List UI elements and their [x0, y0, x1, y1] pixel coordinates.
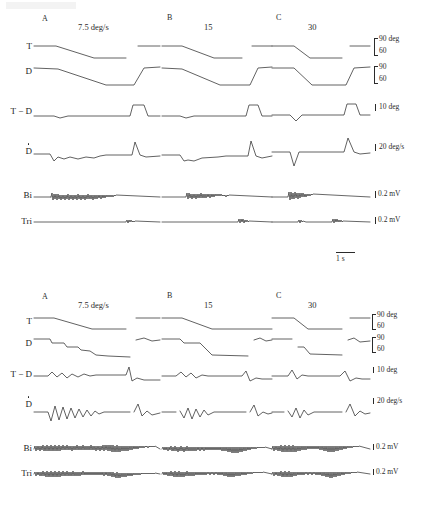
- panel-letter-a-lower: A: [42, 292, 48, 301]
- scale-t-minus-d-label: 10 deg: [379, 103, 399, 111]
- figure-block-upper: A 7.5 deg/s B 15 C 30 T D T − D D Bi Tri: [0, 0, 427, 255]
- trace-t-minus-d-panel-a-lower: [34, 363, 160, 389]
- row-label-t-minus-d: T − D: [0, 106, 32, 116]
- trace-tri-panel-c-lower: [272, 467, 370, 481]
- row-label-tri: Tri: [2, 216, 32, 226]
- trace-tri-panel-b: [162, 216, 272, 228]
- trace-t-panel-b-lower: [162, 312, 272, 334]
- panel-speed-b-lower: 15: [204, 300, 213, 310]
- scale-d-lower-value-lower: 60: [377, 345, 385, 353]
- scale-t-lower-value-lower: 60: [377, 322, 385, 330]
- trace-d-dot-panel-b-lower: [162, 396, 272, 426]
- trace-tri-panel-a: [34, 216, 160, 228]
- panel-header-row-lower: A 7.5 deg/s B 15 C 30: [0, 278, 427, 308]
- trace-d-dot-panel-a-lower: [34, 396, 160, 426]
- trace-bi-panel-b-lower: [162, 442, 272, 456]
- row-label-bi: Bi: [4, 190, 32, 200]
- panel-letter-c: C: [276, 13, 282, 22]
- row-label-d: D: [8, 66, 32, 76]
- trace-t-minus-d-panel-a: [34, 100, 160, 124]
- trace-t-minus-d-panel-b-lower: [162, 363, 272, 389]
- panel-letter-b-lower: B: [167, 291, 173, 300]
- scale-bi-label-lower: 0.2 mV: [376, 443, 399, 451]
- trace-tri-panel-b-lower: [162, 467, 272, 481]
- panel-letter-b: B: [167, 13, 173, 22]
- scale-d-dot-label-lower: 20 deg/s: [377, 397, 402, 405]
- scale-d-upper-value-lower: 90: [377, 334, 385, 342]
- scale-d-dot-label: 20 deg/s: [379, 143, 404, 151]
- panel-speed-b: 15: [204, 22, 213, 32]
- row-label-d-lower: D: [8, 338, 32, 348]
- scale-t-upper-value-lower: 90 deg: [377, 311, 397, 319]
- trace-t-minus-d-panel-c: [272, 100, 370, 124]
- trace-t-panel-a-lower: [34, 312, 160, 334]
- trace-bi-panel-a-lower: [34, 442, 160, 456]
- figure-block-lower: A 7.5 deg/s B 15 C 30 T D T − D D Bi Tri: [0, 278, 427, 507]
- row-label-bi-lower: Bi: [4, 443, 32, 453]
- trace-bi-panel-b: [162, 190, 272, 204]
- trace-d-dot-panel-c: [272, 134, 370, 170]
- scale-bi-label: 0.2 mV: [378, 190, 401, 198]
- trace-d-panel-c: [272, 61, 370, 91]
- scale-t-upper-value: 90 deg: [379, 35, 399, 43]
- scale-tri-label: 0.2 mV: [378, 216, 401, 224]
- trace-bi-panel-a: [34, 190, 160, 204]
- trace-t-minus-d-panel-b: [162, 100, 272, 124]
- trace-t-minus-d-panel-c-lower: [272, 363, 370, 389]
- row-label-t-minus-d-lower: T − D: [0, 369, 32, 379]
- trace-t-panel-c: [272, 36, 370, 62]
- panel-letter-c-lower: C: [276, 291, 282, 300]
- trace-d-panel-a-lower: [34, 334, 160, 362]
- trace-d-dot-panel-b: [162, 136, 272, 168]
- scale-t-minus-d-label-lower: 10 deg: [377, 366, 397, 374]
- trace-t-panel-b: [162, 36, 272, 62]
- row-label-tri-lower: Tri: [2, 468, 32, 478]
- trace-d-panel-a: [34, 61, 160, 91]
- trace-bi-panel-c: [272, 190, 370, 204]
- row-label-d-dot-lower: D: [8, 399, 32, 409]
- row-label-d-dot: D: [8, 146, 32, 156]
- panel-header-row-upper: A 7.5 deg/s B 15 C 30: [0, 0, 427, 30]
- scale-tri-label-lower: 0.2 mV: [376, 468, 399, 476]
- trace-d-panel-b-lower: [162, 334, 272, 362]
- scale-d-upper-value: 90: [379, 63, 387, 71]
- panel-speed-a: 7.5 deg/s: [78, 22, 109, 32]
- trace-t-panel-c-lower: [272, 312, 370, 334]
- trace-d-panel-c-lower: [272, 334, 370, 362]
- trace-tri-panel-a-lower: [34, 467, 160, 481]
- scale-t-lower-value: 60: [379, 47, 387, 55]
- trace-d-dot-panel-a: [34, 136, 160, 168]
- trace-t-panel-a: [34, 36, 160, 62]
- time-scale-line: [336, 252, 355, 253]
- row-label-t: T: [8, 41, 32, 51]
- panel-letter-a: A: [42, 14, 48, 23]
- panel-speed-a-lower: 7.5 deg/s: [78, 300, 109, 310]
- scale-d-lower-value: 60: [379, 75, 387, 83]
- panel-speed-c: 30: [308, 22, 317, 32]
- trace-tri-panel-c: [272, 216, 370, 228]
- trace-d-panel-b: [162, 61, 272, 91]
- row-label-t-lower: T: [8, 316, 32, 326]
- trace-d-dot-panel-c-lower: [272, 396, 370, 426]
- panel-speed-c-lower: 30: [308, 300, 317, 310]
- trace-bi-panel-c-lower: [272, 442, 370, 456]
- time-scale-label: 1 s: [336, 254, 345, 263]
